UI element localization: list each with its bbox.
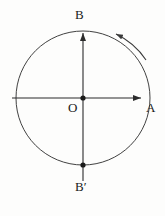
bottom-point-B-prime bbox=[80, 162, 85, 167]
circle-diagram: B B′ A O bbox=[0, 0, 165, 216]
center-point-O bbox=[80, 95, 85, 100]
label-point-B: B bbox=[75, 8, 84, 21]
counterclockwise-rotation-arrow bbox=[116, 34, 146, 60]
label-point-A: A bbox=[146, 101, 155, 114]
label-point-B-prime: B′ bbox=[75, 180, 87, 193]
label-origin-O: O bbox=[68, 101, 77, 114]
